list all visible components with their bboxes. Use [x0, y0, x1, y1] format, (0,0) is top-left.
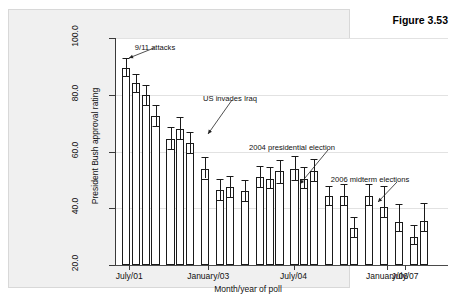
error-bar: [136, 74, 137, 92]
error-bar: [156, 105, 157, 126]
y-tick-label-4: 100.0: [70, 16, 80, 56]
y-tick-3: [109, 95, 115, 96]
error-cap-lower: [266, 188, 273, 189]
x-axis-line: [115, 265, 448, 266]
error-cap-upper: [132, 74, 139, 75]
annotation-2006-midterms-arrow-icon: [372, 176, 403, 208]
error-cap-upper: [276, 160, 283, 161]
x-axis-title: Month/year of poll: [214, 284, 282, 294]
annotation-2004-election-arrow-icon: [294, 144, 334, 190]
error-bar: [260, 166, 261, 187]
error-cap-lower: [276, 183, 283, 184]
error-cap-upper: [341, 184, 348, 185]
error-bar: [354, 217, 355, 237]
x-tick-label-0: July/01: [116, 271, 143, 281]
bar: [132, 83, 140, 265]
error-cap-lower: [350, 237, 357, 238]
x-tick-label-4: July/07: [392, 271, 419, 281]
bar: [216, 190, 224, 265]
x-tick-label-1: January/03: [187, 271, 229, 281]
error-cap-lower: [152, 126, 159, 127]
error-cap-lower: [177, 139, 184, 140]
y-tick-label-2: 60.0: [70, 130, 80, 170]
error-bar: [270, 167, 271, 188]
error-bar: [205, 157, 206, 178]
error-bar: [220, 179, 221, 200]
error-cap-lower: [326, 205, 333, 206]
bar: [166, 139, 174, 265]
annotation-iraq-arrow-icon: [202, 94, 238, 140]
bar: [256, 177, 264, 265]
error-cap-lower: [241, 201, 248, 202]
error-cap-upper: [177, 117, 184, 118]
error-bar: [180, 117, 181, 138]
x-tick-3: [387, 265, 388, 270]
bar: [151, 116, 159, 265]
error-cap-upper: [410, 225, 417, 226]
error-bar: [414, 225, 415, 243]
error-cap-lower: [410, 244, 417, 245]
bar: [241, 191, 249, 265]
y-tick-label-1: 40.0: [70, 186, 80, 226]
chart-canvas: President Bush approval rating 20.040.06…: [60, 16, 435, 276]
bar: [226, 187, 234, 265]
bar: [201, 169, 209, 266]
error-bar: [190, 132, 191, 153]
x-tick-label-2: July/04: [280, 271, 307, 281]
gridline-80: [116, 95, 448, 96]
error-cap-lower: [132, 92, 139, 93]
error-cap-upper: [241, 180, 248, 181]
error-cap-lower: [395, 231, 402, 232]
error-cap-lower: [256, 187, 263, 188]
error-cap-upper: [420, 203, 427, 204]
error-bar: [369, 184, 370, 205]
annotation-911-arrow-icon: [123, 42, 160, 64]
bar: [176, 129, 184, 265]
bar: [122, 68, 130, 265]
error-cap-upper: [226, 176, 233, 177]
y-tick-4: [109, 38, 115, 39]
error-cap-lower: [123, 76, 130, 77]
y-tick-label-3: 80.0: [70, 73, 80, 113]
error-bar: [344, 184, 345, 205]
bar: [300, 179, 308, 266]
error-cap-lower: [167, 149, 174, 150]
error-cap-upper: [202, 157, 209, 158]
y-tick-2: [109, 152, 115, 153]
error-cap-upper: [350, 217, 357, 218]
y-tick-1: [109, 208, 115, 209]
bar: [186, 143, 194, 265]
bar: [266, 179, 274, 266]
error-bar: [424, 203, 425, 231]
error-cap-upper: [142, 85, 149, 86]
error-cap-upper: [187, 132, 194, 133]
error-cap-upper: [217, 179, 224, 180]
error-cap-lower: [142, 105, 149, 106]
error-bar: [146, 85, 147, 105]
error-cap-lower: [202, 179, 209, 180]
error-cap-upper: [256, 166, 263, 167]
error-cap-upper: [167, 127, 174, 128]
error-cap-lower: [217, 200, 224, 201]
error-bar: [399, 204, 400, 231]
error-cap-lower: [380, 217, 387, 218]
bar: [275, 171, 283, 265]
gridline-100: [116, 38, 448, 39]
y-tick-label-0: 20.0: [70, 243, 80, 283]
error-cap-lower: [187, 153, 194, 154]
error-cap-lower: [420, 231, 427, 232]
x-tick-2: [294, 265, 295, 270]
error-cap-upper: [152, 105, 159, 106]
error-bar: [171, 127, 172, 148]
x-tick-4: [405, 265, 406, 270]
error-bar: [230, 176, 231, 197]
error-bar: [280, 160, 281, 183]
figure-page: Figure 3.53 President Bush approval rati…: [0, 0, 461, 295]
error-cap-upper: [266, 167, 273, 168]
error-cap-lower: [226, 197, 233, 198]
error-bar: [245, 180, 246, 201]
error-cap-lower: [341, 205, 348, 206]
bar: [142, 95, 150, 265]
y-axis-title: President Bush approval rating: [90, 71, 100, 221]
x-tick-1: [208, 265, 209, 270]
